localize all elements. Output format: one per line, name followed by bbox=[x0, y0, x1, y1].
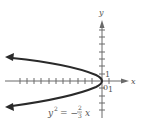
equation-label: y 2 = − 2 3 x bbox=[47, 104, 90, 119]
y-axis-arrow-icon bbox=[100, 20, 105, 28]
x-axis-label: x bbox=[131, 77, 136, 86]
y-axis-label: y bbox=[98, 8, 104, 17]
svg-text:2: 2 bbox=[54, 105, 58, 112]
svg-text:x: x bbox=[85, 108, 90, 118]
curve-arrow-upper-icon bbox=[5, 53, 14, 61]
svg-text:= −: = − bbox=[60, 108, 78, 118]
y-tick-label-1: 1 bbox=[105, 70, 110, 79]
svg-text:2: 2 bbox=[78, 104, 82, 111]
svg-text:3: 3 bbox=[78, 112, 82, 119]
x-axis-arrow-icon bbox=[121, 79, 129, 84]
parabola-graph: y x 1 0 1 y 2 = − 2 3 x bbox=[0, 0, 141, 132]
curve-arrow-lower-icon bbox=[5, 103, 14, 111]
x-tick-label-1: 1 bbox=[108, 85, 113, 94]
svg-text:y: y bbox=[47, 108, 54, 118]
parabola-curve bbox=[12, 58, 102, 106]
